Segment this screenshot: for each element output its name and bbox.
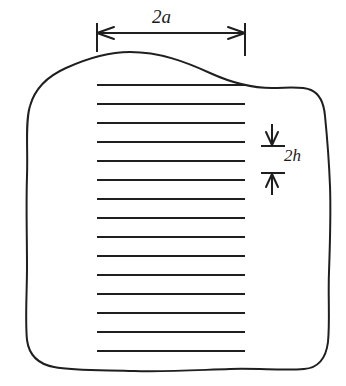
crack-line-group <box>97 85 245 351</box>
spacing-dimension-2h <box>261 124 285 195</box>
crack-array-figure: 2a 2h <box>0 0 346 386</box>
width-dimension-2a <box>97 23 245 56</box>
spacing-label-2h: 2h <box>284 147 301 164</box>
figure-canvas <box>0 0 346 386</box>
width-label-2a: 2a <box>152 7 171 26</box>
body-outline <box>26 52 330 371</box>
